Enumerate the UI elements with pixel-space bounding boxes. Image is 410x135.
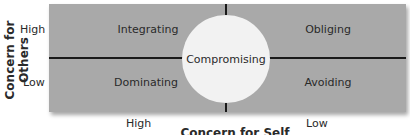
center-label: Compromising: [186, 53, 266, 66]
center-circle: Compromising: [182, 15, 270, 103]
y-tick-low: Low: [23, 76, 45, 89]
y-tick-high: High: [20, 23, 45, 36]
quadrant-obliging: Obliging: [268, 23, 388, 36]
quadrant-avoiding: Avoiding: [268, 76, 388, 89]
y-axis-label: Concern for Others: [3, 5, 23, 115]
x-tick-high: High: [126, 117, 151, 130]
x-axis-label: Concern for Self: [160, 126, 310, 135]
